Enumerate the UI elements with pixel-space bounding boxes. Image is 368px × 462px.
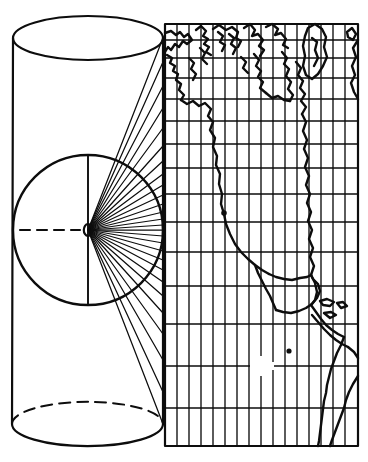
- coast-detail-north-4: [189, 58, 196, 80]
- coast-sa-east: [348, 347, 358, 358]
- coast-hudson-s: [266, 93, 290, 101]
- projection-diagram-figure: Cylindrical (Mercator) map projection co…: [0, 0, 368, 462]
- coast-detail-north-1: [218, 32, 225, 51]
- ray-26: [88, 230, 163, 424]
- mercator-map-panel: [165, 24, 358, 446]
- coast-alaska-nw: [165, 31, 192, 52]
- coast-island-speck-2: [288, 350, 291, 353]
- ray-1: [88, 62, 163, 230]
- coast-greenland-inner: [312, 38, 318, 66]
- coast-caribbean-3: [324, 312, 336, 318]
- ray-0: [88, 38, 163, 230]
- coast-caribbean-1: [320, 299, 334, 306]
- coast-hudson-e: [282, 52, 293, 101]
- coast-detail-north-3: [241, 57, 248, 73]
- map-scan-gap-artifact-2: [250, 362, 274, 370]
- coast-sa-west: [318, 337, 344, 446]
- coast-detail-north-2: [229, 34, 236, 54]
- cylinder-bottom-back: [12, 402, 163, 424]
- ray-3: [88, 108, 163, 230]
- coast-iceland: [347, 28, 356, 40]
- ray-25: [88, 230, 163, 392]
- coast-hudson-w: [254, 54, 266, 93]
- projection-diagram-svg: [0, 0, 368, 462]
- coast-caribbean-2: [337, 302, 347, 308]
- coast-sa-east-lower: [330, 376, 358, 446]
- projection-rays: [88, 38, 163, 424]
- cylinder-bottom-front: [12, 424, 163, 446]
- coast-island-speck-1: [222, 211, 225, 214]
- coast-gulf: [269, 274, 311, 280]
- cylinder-top-ellipse: [13, 16, 163, 60]
- ray-6: [88, 161, 163, 230]
